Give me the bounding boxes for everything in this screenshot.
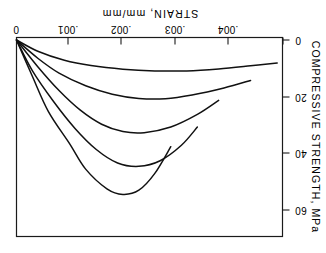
x-tick-label-0: 0: [13, 24, 19, 35]
y-tick-label-60: 60: [295, 205, 307, 216]
x-tick-label-001: .001: [58, 24, 79, 35]
y-axis: 0 20 40 60 COMPRESSIVE STRENGTH, MPa: [283, 35, 323, 233]
x-axis: .004 .003 .002 .001 0 STRAIN, mm/mm: [13, 8, 283, 45]
curve-5: [17, 40, 171, 194]
y-axis-title: COMPRESSIVE STRENGTH, MPa: [310, 41, 322, 234]
x-tick-label-004: .004: [218, 24, 239, 35]
x-tick-label-003: .003: [165, 24, 186, 35]
y-tick-label-20: 20: [295, 92, 307, 103]
x-tick-label-002: .002: [111, 24, 132, 35]
data-curves: [17, 40, 278, 194]
chart-figure: .004 .003 .002 .001 0 STRAIN, mm/mm 0 20…: [0, 0, 326, 253]
y-tick-label-0: 0: [295, 35, 301, 46]
curve-1: [17, 40, 278, 71]
curve-3: [17, 40, 219, 133]
y-tick-label-40: 40: [295, 148, 307, 159]
stress-strain-chart: .004 .003 .002 .001 0 STRAIN, mm/mm 0 20…: [0, 0, 326, 253]
x-axis-title: STRAIN, mm/mm: [102, 8, 199, 20]
rotated-page-content: .004 .003 .002 .001 0 STRAIN, mm/mm 0 20…: [0, 0, 326, 253]
